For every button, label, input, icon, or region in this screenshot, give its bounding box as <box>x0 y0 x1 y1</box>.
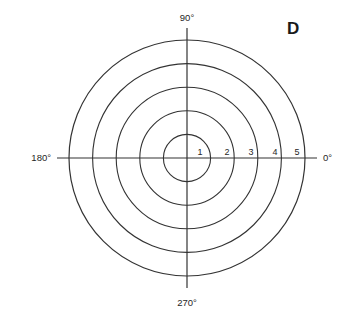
radial-tick-labels: 1 2 3 4 5 <box>197 147 299 157</box>
panel-label-d: D <box>287 20 299 37</box>
radial-tick-label-2: 2 <box>224 147 229 157</box>
angle-label-90: 90° <box>180 12 195 23</box>
angle-label-0: 0° <box>323 152 332 163</box>
angle-label-270: 270° <box>177 297 197 308</box>
radial-tick-label-4: 4 <box>272 147 277 157</box>
radial-tick-label-5: 5 <box>294 147 299 157</box>
polar-axes <box>57 28 317 288</box>
polar-chart-figure: 90° 0° 180° 270° 1 2 3 4 5 D <box>0 0 352 328</box>
polar-grid-svg: 90° 0° 180° 270° 1 2 3 4 5 <box>0 0 352 328</box>
radial-tick-label-1: 1 <box>197 147 202 157</box>
angle-labels: 90° 0° 180° 270° <box>31 12 332 308</box>
radial-tick-label-3: 3 <box>248 147 253 157</box>
angle-label-180: 180° <box>31 152 51 163</box>
